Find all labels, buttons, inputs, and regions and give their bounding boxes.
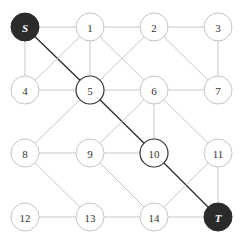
edges-layer <box>25 27 218 217</box>
node-label: S <box>22 22 28 34</box>
node-9: 9 <box>76 139 104 167</box>
node-8: 8 <box>11 139 39 167</box>
node-t: T <box>204 203 232 231</box>
node-label: 8 <box>22 148 28 160</box>
node-6: 6 <box>140 76 168 104</box>
node-label: 1 <box>87 22 93 34</box>
node-2: 2 <box>140 13 168 41</box>
node-7: 7 <box>204 76 232 104</box>
node-13: 13 <box>76 203 104 231</box>
node-label: 12 <box>20 212 31 224</box>
node-1: 1 <box>76 13 104 41</box>
node-label: 2 <box>151 22 157 34</box>
node-label: 14 <box>149 212 161 224</box>
node-4: 4 <box>11 76 39 104</box>
node-s: S <box>11 13 39 41</box>
node-3: 3 <box>204 13 232 41</box>
node-5: 5 <box>76 76 104 104</box>
node-label: 7 <box>215 85 221 97</box>
node-label: 9 <box>87 148 93 160</box>
node-label: 4 <box>22 85 28 97</box>
graph-diagram: S1234567891011121314T <box>0 0 246 239</box>
node-label: 3 <box>215 22 221 34</box>
node-11: 11 <box>204 139 232 167</box>
node-label: 11 <box>213 148 224 160</box>
node-label: 13 <box>85 212 97 224</box>
node-label: 10 <box>149 148 161 160</box>
node-14: 14 <box>140 203 168 231</box>
node-label: 6 <box>151 85 157 97</box>
node-12: 12 <box>11 203 39 231</box>
node-label: 5 <box>87 85 93 97</box>
node-10: 10 <box>140 139 168 167</box>
